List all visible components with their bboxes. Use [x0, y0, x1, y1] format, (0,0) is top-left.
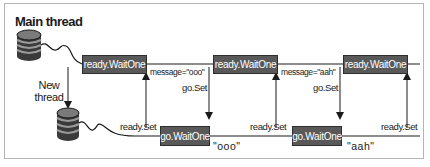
new-thread-spool-icon	[57, 108, 79, 141]
ready-set-label-2: ready.Set	[250, 121, 286, 132]
received-value-1: "ooo"	[213, 140, 240, 152]
new-thread-label-line2: thread	[33, 91, 65, 103]
new-thread-label: New thread	[33, 79, 65, 103]
main-thread-spool-icon	[17, 30, 41, 61]
main-thread-squiggle	[41, 44, 82, 64]
ready-set-label-1: ready.Set	[120, 121, 156, 132]
main-wait-box-1: ready.WaitOne	[82, 55, 147, 74]
new-thread-label-line1: New	[33, 79, 65, 91]
message-label-2: message="aah"	[281, 67, 335, 77]
message-label-1: message="ooo"	[150, 67, 204, 77]
worker-wait-box-2: go.WaitOne	[292, 126, 342, 146]
main-thread-title: Main thread	[15, 14, 82, 29]
worker-wait-box-1: go.WaitOne	[160, 126, 210, 146]
ready-set-label-3: ready.Set	[381, 121, 417, 132]
go-set-label-2: go.Set	[313, 82, 338, 93]
received-value-2: "aah"	[347, 140, 374, 152]
go-set-label-1: go.Set	[182, 82, 207, 93]
main-wait-box-2: ready.WaitOne	[213, 55, 278, 74]
main-wait-box-3: ready.WaitOne	[343, 55, 408, 74]
